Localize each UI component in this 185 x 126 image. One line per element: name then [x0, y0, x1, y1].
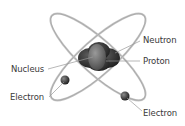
- label-neutron: Neutron: [143, 36, 177, 45]
- electron-left: [61, 76, 70, 85]
- proton-sphere: [88, 44, 106, 70]
- label-electron-left: Electron: [10, 93, 44, 102]
- label-nucleus: Nucleus: [11, 65, 44, 74]
- label-proton: Proton: [143, 57, 170, 66]
- label-electron-right: Electron: [143, 109, 177, 118]
